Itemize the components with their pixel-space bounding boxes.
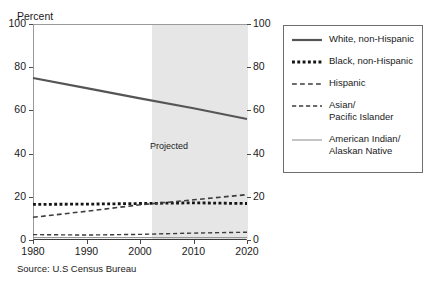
y-tick-right [247,110,251,111]
legend-item-label: White, non-Hispanic [329,33,414,45]
legend-item[interactable]: Asian/ Pacific Islander [292,99,393,122]
legend-item[interactable]: Hispanic [292,77,365,90]
y-tick-left [29,24,33,25]
x-tick-label: 2020 [227,245,267,257]
y-tick-right [247,197,251,198]
x-tick [33,240,34,244]
y-tick-label-right: 80 [253,61,265,72]
series-layer [33,24,247,240]
x-tick [87,240,88,244]
legend-line-swatch [292,134,322,146]
y-tick-right [247,154,251,155]
y-tick-label-right: 60 [253,104,265,115]
legend-item-label: Asian/ Pacific Islander [329,99,393,122]
x-tick-label: 1980 [13,245,53,257]
legend-item[interactable]: American Indian/ Alaskan Native [292,133,400,156]
y-tick-left [29,154,33,155]
y-tick-label-left: 60 [0,104,26,115]
x-tick [140,240,141,244]
x-tick-label: 2000 [120,245,160,257]
legend-item-label: Black, non-Hispanic [329,55,413,67]
legend-line-swatch [292,56,322,68]
legend-item-label: American Indian/ Alaskan Native [329,133,400,156]
y-tick-label-left: 80 [0,61,26,72]
x-tick [247,240,248,244]
y-tick-right [247,67,251,68]
y-tick-label-right: 20 [253,191,265,202]
legend-line-swatch [292,78,322,90]
series-line [33,232,247,235]
y-tick-label-right: 0 [253,234,259,245]
y-tick-left [29,110,33,111]
x-tick-label: 1990 [67,245,107,257]
y-tick-label-left: 20 [0,191,26,202]
y-tick-label-left: 40 [0,148,26,159]
x-tick-label: 2010 [174,245,214,257]
x-tick [194,240,195,244]
legend-item[interactable]: White, non-Hispanic [292,33,414,46]
legend-line-swatch [292,100,322,112]
y-tick-label-right: 40 [253,148,265,159]
source-note: Source: U.S Census Bureau [17,263,136,275]
chart-figure: Percent Projected 0204060801000204060801… [0,0,428,291]
series-line [33,78,247,119]
series-line [33,195,247,218]
legend-line-swatch [292,34,322,46]
y-tick-right [247,24,251,25]
y-tick-left [29,67,33,68]
y-tick-label-left: 0 [0,234,26,245]
chart-legend: White, non-HispanicBlack, non-HispanicHi… [283,25,423,173]
y-tick-left [29,197,33,198]
legend-item-label: Hispanic [329,77,365,89]
legend-item[interactable]: Black, non-Hispanic [292,55,413,68]
y-tick-label-left: 100 [0,18,26,29]
y-tick-label-right: 100 [253,18,271,29]
